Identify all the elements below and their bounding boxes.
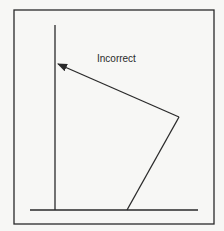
incorrect-label: Incorrect	[97, 53, 136, 64]
arrow-segment	[58, 64, 179, 117]
frame-border	[14, 10, 214, 224]
diagram-canvas: Incorrect	[0, 0, 224, 231]
incorrect-vector-diagram: Incorrect	[0, 0, 224, 231]
diagonal-segment	[127, 117, 179, 210]
